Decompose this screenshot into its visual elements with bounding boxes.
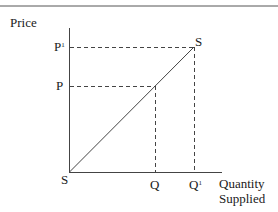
price-p-label: P <box>56 79 63 92</box>
y-axis-label: Price <box>10 16 37 29</box>
curve-label-top: S <box>195 35 202 48</box>
x-axis-label-line1: Quantity <box>219 177 265 190</box>
curve-label-origin: S <box>61 173 68 186</box>
price-p1-label: P1 <box>54 40 65 53</box>
quantity-q-label: Q <box>150 178 159 191</box>
supply-curve <box>70 47 195 172</box>
supply-diagram: Price P1 P S S Q Q1 Quantity Supplied <box>0 0 278 212</box>
quantity-q1-label: Q1 <box>189 178 202 191</box>
x-axis-label-line2: Supplied <box>219 192 265 205</box>
